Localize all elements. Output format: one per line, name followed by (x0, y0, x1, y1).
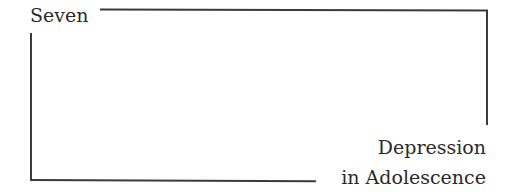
chapter-title-line-2: in Adolescence (341, 166, 486, 188)
frame-top-line (100, 8, 488, 11)
chapter-number: Seven (30, 4, 88, 26)
frame-left-line (30, 33, 32, 181)
frame-right-line (486, 11, 488, 125)
frame-bottom-line (30, 179, 316, 182)
chapter-title-line-1: Depression (378, 136, 486, 158)
